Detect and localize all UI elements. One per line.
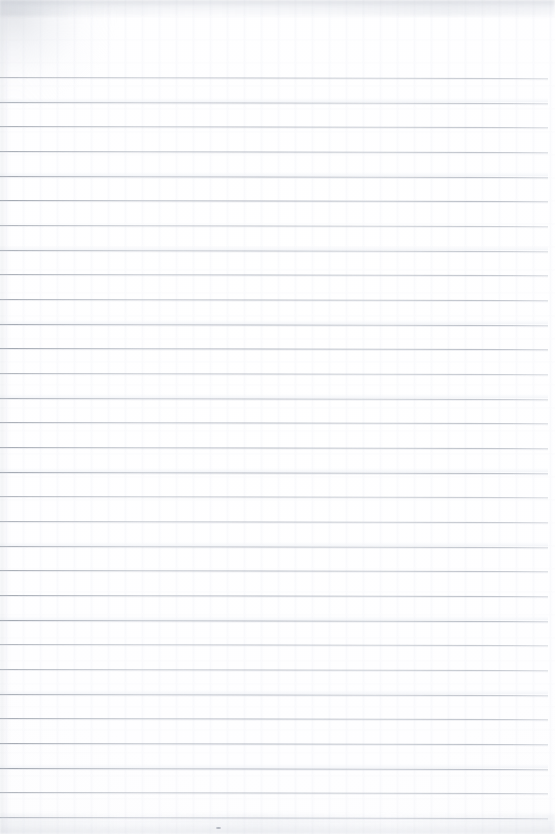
rule-line (0, 595, 548, 597)
rule-line (0, 546, 548, 548)
rule-line (0, 694, 548, 696)
rule-line (0, 348, 548, 350)
rule-line (0, 77, 548, 79)
rule-line (0, 398, 548, 400)
rule-line (0, 200, 548, 202)
rule-line (0, 472, 548, 474)
rule-line (0, 521, 548, 523)
rule-line (0, 644, 548, 646)
rule-line (0, 225, 548, 227)
ruled-lines-layer (0, 0, 555, 834)
rule-line (0, 324, 548, 326)
rule-line (0, 102, 548, 104)
rule-line (0, 447, 548, 449)
rule-line (0, 817, 548, 819)
rule-line (0, 176, 548, 178)
rule-line (0, 718, 548, 720)
scanned-page (0, 0, 555, 834)
rule-line (0, 620, 548, 622)
rule-line (0, 768, 548, 770)
rule-line (0, 373, 548, 375)
rule-line (0, 422, 548, 424)
rule-line (0, 299, 548, 301)
rule-line (0, 496, 548, 498)
rule-line (0, 570, 548, 572)
rule-line (0, 250, 548, 252)
rule-line (0, 669, 548, 671)
rule-line (0, 151, 548, 153)
rule-line (0, 126, 548, 128)
rule-line (0, 743, 548, 745)
rule-line (0, 274, 548, 276)
rule-line (0, 792, 548, 794)
